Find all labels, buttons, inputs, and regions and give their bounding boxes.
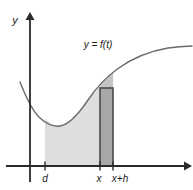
figure-canvas: y y = f(t) d x x+h	[0, 0, 193, 190]
y-axis-label: y	[11, 14, 19, 26]
increment-rectangle	[100, 88, 113, 166]
x-axis-arrowhead	[184, 162, 192, 171]
calculus-figure: y y = f(t) d x x+h	[0, 0, 193, 190]
tick-label-d: d	[42, 173, 48, 184]
tick-label-x-plus-h: x+h	[111, 173, 129, 184]
tick-label-x: x	[96, 173, 103, 184]
increment-sliver-region	[100, 73, 113, 88]
y-axis-arrowhead	[26, 12, 35, 20]
curve-equation-label: y = f(t)	[83, 39, 113, 50]
